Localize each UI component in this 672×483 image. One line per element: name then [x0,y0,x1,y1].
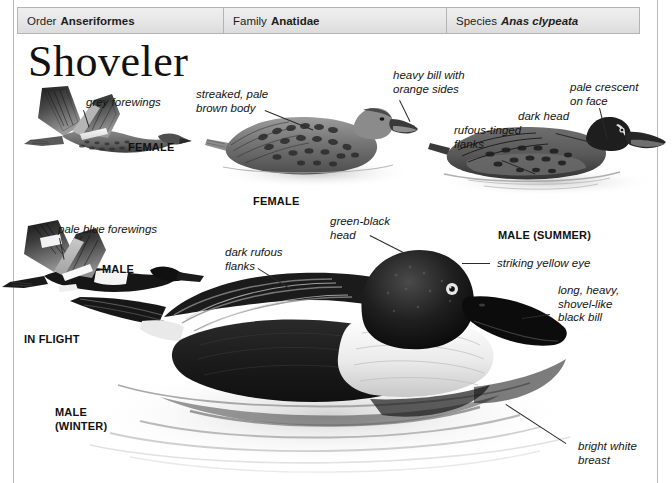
field-guide-page: Order Anseriformes Family Anatidae Speci… [0,0,672,483]
taxonomy-header: Order Anseriformes Family Anatidae Speci… [17,7,640,34]
order-key: Order [27,15,56,27]
leader-striking-yellow-eye [462,263,490,264]
annotation-pale-crescent-on-face: pale crescent on face [570,81,638,108]
annotation-dark-head: dark head [518,110,569,124]
annotation-dark-rufous-flanks: dark rufous flanks [225,246,283,273]
family-key: Family [233,15,267,27]
family-value: Anatidae [271,15,320,27]
plate-label-male-flight: MALE [102,262,134,276]
annotation-long-heavy-shovel-like-black-bill: long, heavy, shovel-like black bill [558,284,619,325]
plate-label-male-winter: MALE (WINTER) [55,405,107,433]
species-key: Species [456,15,497,27]
page-title: Shoveler [28,40,188,84]
annotation-bright-white-breast: bright white breast [578,440,637,467]
species-value: Anas clypeata [501,15,578,27]
annotation-grey-forewings: grey forewings [86,96,161,110]
right-margin-rule [657,0,658,483]
illustration-male-winter [70,235,580,480]
taxonomy-cell-species: Species Anas clypeata [446,8,639,33]
plate-label-female-flight: FEMALE [128,140,174,154]
annotation-green-black-head: green-black head [330,215,390,242]
annotation-streaked-pale-brown-body: streaked, pale brown body [196,88,268,115]
plate-label-male-summer: MALE (SUMMER) [498,228,591,242]
male-winter-artwork [70,235,580,480]
annotation-rufous-tinged-flanks: rufous-tinged flanks [454,124,521,151]
taxonomy-cell-order: Order Anseriformes [18,8,223,33]
order-value: Anseriformes [60,15,134,27]
plate-label-in-flight: IN FLIGHT [24,332,80,346]
annotation-heavy-bill-orange-sides: heavy bill with orange sides [393,69,465,96]
annotation-striking-yellow-eye: striking yellow eye [497,257,590,271]
taxonomy-cell-family: Family Anatidae [223,8,446,33]
annotation-pale-blue-forewings: pale blue forewings [58,223,157,237]
plate-label-female-swimming: FEMALE [253,194,299,208]
